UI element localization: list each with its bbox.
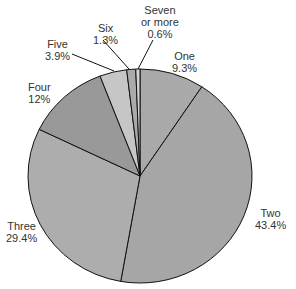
leader-line-five: [72, 54, 114, 71]
label-six: Six 1.3%: [93, 22, 118, 46]
label-one: One 9.3%: [172, 50, 197, 74]
label-seven-pct: 0.6%: [141, 28, 179, 40]
label-six-name: Six: [93, 22, 118, 34]
label-five-pct: 3.9%: [45, 50, 70, 62]
label-five-name: Five: [45, 38, 70, 50]
label-four-pct: 12%: [28, 93, 51, 105]
label-seven-name-2: or more: [141, 16, 179, 28]
label-three-name: Three: [6, 220, 37, 232]
label-two: Two 43.4%: [255, 207, 286, 231]
label-one-pct: 9.3%: [172, 62, 197, 74]
label-one-name: One: [172, 50, 197, 62]
label-four-name: Four: [28, 81, 51, 93]
label-six-pct: 1.3%: [93, 34, 118, 46]
label-two-name: Two: [255, 207, 286, 219]
pie-slices: [28, 69, 252, 283]
label-two-pct: 43.4%: [255, 219, 286, 231]
leader-line-seven: [138, 40, 153, 69]
label-seven-name-1: Seven: [141, 4, 179, 16]
label-three-pct: 29.4%: [6, 232, 37, 244]
label-five: Five 3.9%: [45, 38, 70, 62]
label-three: Three 29.4%: [6, 220, 37, 244]
label-four: Four 12%: [28, 81, 51, 105]
label-seven-or-more: Seven or more 0.6%: [141, 4, 179, 40]
